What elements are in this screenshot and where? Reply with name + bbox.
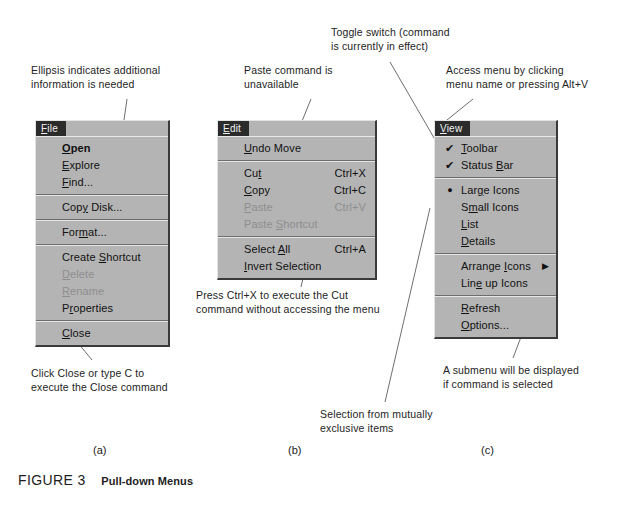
menu-item-refresh[interactable]: Refresh [435,300,556,317]
menu-item-line-up-icons[interactable]: Line up Icons [435,275,556,292]
file-menu-title-label: File [41,123,58,134]
menu-separator [218,160,375,162]
leader-toggle [390,62,437,143]
menu-item-small-icons[interactable]: Small Icons [435,199,556,216]
menu-separator [435,295,556,297]
menu-item-toolbar[interactable]: ✔Toolbar [435,140,556,157]
annotation-click-close: Click Close or type C to execute the Clo… [31,367,221,394]
menu-separator [36,244,168,246]
file-menu-title[interactable]: File [36,121,66,136]
menu-item-invert-selection[interactable]: Invert Selection [218,258,375,275]
edit-menu[interactable]: Edit Undo MoveCutCtrl+XCopyCtrl+CPasteCt… [217,120,377,280]
menu-separator [435,177,556,179]
annotation-mutually-exclusive: Selection from mutually exclusive items [320,408,480,435]
menu-item-label: Large Icons [461,184,520,196]
menu-item-label: Paste [244,201,273,213]
view-menu-title[interactable]: View [435,121,470,136]
menu-item-status-bar[interactable]: ✔Status Bar [435,157,556,174]
menu-item-list[interactable]: List [435,216,556,233]
checkmark-icon: ✔ [444,157,456,174]
menu-item-label: List [461,218,479,230]
submenu-arrow-icon: ▶ [542,258,549,275]
menu-item-label: Select All [244,243,290,255]
menu-item-undo-move[interactable]: Undo Move [218,140,375,157]
menu-item-label: Invert Selection [244,260,321,272]
menu-item-options[interactable]: Options... [435,317,556,334]
menu-item-accelerator: Ctrl+A [335,241,366,258]
menu-item-select-all[interactable]: Select AllCtrl+A [218,241,375,258]
menu-item-format[interactable]: Format... [36,224,168,241]
menu-item-label: Close [62,327,91,339]
menu-item-paste: PasteCtrl+V [218,199,375,216]
part-label-a: (a) [93,444,106,456]
menu-item-label: Refresh [461,302,500,314]
menu-item-paste-shortcut: Paste Shortcut [218,216,375,233]
figure-title: Pull-down Menus [101,475,193,487]
annotation-submenu: A submenu will be displayed if command i… [443,364,628,391]
edit-menu-title[interactable]: Edit [218,121,249,136]
menu-item-properties[interactable]: Properties [36,300,168,317]
view-menu-items: ✔Toolbar✔Status Bar●Large IconsSmall Ico… [435,137,556,337]
annotation-ellipsis: Ellipsis indicates additional informatio… [31,64,231,91]
menu-item-label: Small Icons [461,201,519,213]
menu-item-accelerator: Ctrl+V [335,199,366,216]
menu-item-delete: Delete [36,266,168,283]
menu-item-cut[interactable]: CutCtrl+X [218,165,375,182]
part-label-b: (b) [288,444,301,456]
edit-menu-items: Undo MoveCutCtrl+XCopyCtrl+CPasteCtrl+VP… [218,137,375,278]
menu-item-label: Undo Move [244,142,301,154]
menu-item-close[interactable]: Close [36,325,168,342]
annotation-press-ctrl-x: Press Ctrl+X to execute the Cut command … [196,289,411,316]
menu-item-label: Details [461,235,495,247]
menu-item-label: Open [62,142,91,154]
view-menu[interactable]: View ✔Toolbar✔Status Bar●Large IconsSmal… [434,120,558,339]
figure-page: Ellipsis indicates additional informatio… [0,0,634,515]
menu-item-label: Status Bar [461,159,513,171]
menu-item-open[interactable]: Open [36,140,168,157]
menu-item-explore[interactable]: Explore [36,157,168,174]
menu-separator [218,236,375,238]
menu-item-label: Explore [62,159,100,171]
menu-item-find[interactable]: Find... [36,174,168,191]
file-menu-items: OpenExploreFind...Copy Disk...Format...C… [36,137,168,345]
menu-item-label: Find... [62,176,93,188]
edit-menu-titlebar: Edit [218,121,375,137]
menu-item-accelerator: Ctrl+X [335,165,366,182]
menu-item-copy[interactable]: CopyCtrl+C [218,182,375,199]
radio-bullet-icon: ● [444,182,456,199]
menu-item-label: Paste Shortcut [244,218,318,230]
figure-caption: FIGURE 3 Pull-down Menus [18,471,193,489]
menu-item-label: Copy [244,184,270,196]
annotation-access-menu: Access menu by clicking menu name or pre… [446,64,631,91]
menu-separator [36,320,168,322]
menu-item-rename: Rename [36,283,168,300]
menu-item-details[interactable]: Details [435,233,556,250]
menu-item-label: Line up Icons [461,277,528,289]
menu-item-label: Create Shortcut [62,251,141,263]
menu-item-arrange-icons[interactable]: Arrange Icons▶ [435,258,556,275]
menu-item-label: Rename [62,285,104,297]
file-menu[interactable]: File OpenExploreFind...Copy Disk...Forma… [35,120,170,347]
menu-item-label: Delete [62,268,94,280]
menu-item-accelerator: Ctrl+C [334,182,366,199]
menu-item-copy-disk[interactable]: Copy Disk... [36,199,168,216]
figure-number: FIGURE 3 [18,472,86,488]
menu-separator [435,253,556,255]
menu-item-label: Properties [62,302,113,314]
checkmark-icon: ✔ [444,140,456,157]
menu-item-label: Cut [244,167,261,179]
part-label-c: (c) [481,444,494,456]
menu-item-create-shortcut[interactable]: Create Shortcut [36,249,168,266]
edit-menu-title-label: Edit [223,123,241,134]
menu-separator [36,219,168,221]
annotation-paste-unavailable: Paste command is unavailable [244,64,394,91]
view-menu-title-label: View [440,123,462,134]
annotation-toggle-switch: Toggle switch (command is currently in e… [331,26,491,53]
menu-item-label: Format... [62,226,107,238]
menu-item-large-icons[interactable]: ●Large Icons [435,182,556,199]
menu-item-label: Toolbar [461,142,498,154]
menu-item-label: Copy Disk... [62,201,123,213]
view-menu-titlebar: View [435,121,556,137]
file-menu-titlebar: File [36,121,168,137]
menu-separator [36,194,168,196]
